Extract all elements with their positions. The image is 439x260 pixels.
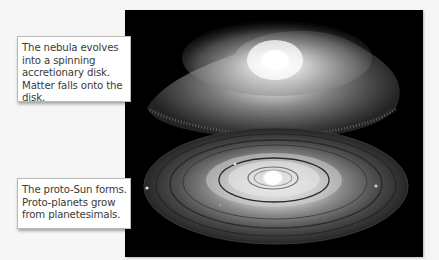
caption-text: The nebula evolves into a spinning accre… [22,42,122,103]
caption-proto-sun: The proto-Sun forms. Proto-planets grow … [17,178,131,229]
caption-accretion-disk: The nebula evolves into a spinning accre… [17,36,131,102]
caption-text: The proto-Sun forms. Proto-planets grow … [22,184,127,220]
disk-illustrations [125,10,423,257]
proto-sun-illustration [144,128,408,244]
illustration-panel [125,10,423,257]
accretion-disk-illustration [147,20,400,138]
